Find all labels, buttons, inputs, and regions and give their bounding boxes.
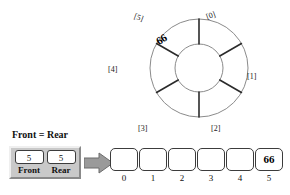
pointer-name-row: Front Rear — [15, 165, 76, 175]
array-cell-5: 66 — [255, 148, 283, 171]
diagram-canvas: [0] [1] [2] [3] [4] [5] 66 Front = Rear … — [0, 0, 290, 195]
array-index-4: 4 — [238, 173, 243, 183]
array-index-2: 2 — [180, 173, 185, 183]
pointer-panel-title: Front = Rear — [12, 129, 68, 140]
array-cell-2 — [168, 148, 196, 171]
pointer-panel-inner: 5 5 Front Rear — [11, 148, 79, 177]
array-cell-3 — [197, 148, 225, 171]
ring-inner-circle — [175, 44, 223, 92]
array-index-1: 1 — [151, 173, 156, 183]
pointer-panel: 5 5 Front Rear — [9, 146, 81, 179]
front-pointer-label: Front — [15, 165, 44, 175]
ring-slot-label-5: [5] — [133, 12, 145, 24]
rear-pointer-label: Rear — [47, 165, 76, 175]
array-index-3: 3 — [209, 173, 214, 183]
front-pointer-value: 5 — [15, 150, 44, 164]
array-column-2: 2 — [168, 148, 196, 183]
linear-array: 0 1 2 3 4 66 5 — [110, 148, 283, 183]
array-column-4: 4 — [226, 148, 254, 183]
array-column-1: 1 — [139, 148, 167, 183]
rear-pointer-value: 5 — [47, 150, 76, 164]
array-index-0: 0 — [122, 173, 127, 183]
array-column-3: 3 — [197, 148, 225, 183]
ring-slot-label-4: [4] — [108, 65, 117, 74]
array-column-5: 66 5 — [255, 148, 283, 183]
array-column-0: 0 — [110, 148, 138, 183]
array-index-5: 5 — [267, 173, 272, 183]
pointer-value-row: 5 5 — [15, 150, 76, 164]
array-cell-0 — [110, 148, 138, 171]
array-cell-4 — [226, 148, 254, 171]
ring-slot-label-1: [1] — [247, 72, 256, 81]
ring-slot-label-2: [2] — [211, 124, 220, 133]
ring-slot-label-3: [3] — [138, 124, 147, 133]
array-cell-1 — [139, 148, 167, 171]
arrow-shape — [84, 153, 113, 173]
